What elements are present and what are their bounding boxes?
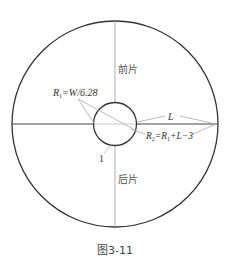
r2-formula-label: R2=R1+L−3 — [145, 131, 193, 142]
r1-leader-line-1 — [78, 99, 94, 123]
figure-caption: 图3-11 — [97, 244, 133, 257]
pattern-diagram: 前片 后片 R1=W/6.28 L R2=R1+L−3 1 图3-11 — [0, 0, 231, 264]
back-piece-label: 后片 — [118, 173, 138, 185]
r1-symbol: R — [52, 87, 59, 98]
r2-leader-line-left — [130, 129, 145, 134]
r2-formula-rest: +L−3 — [170, 131, 193, 141]
point-1-leader-line — [104, 146, 110, 153]
l-leader-line-left — [137, 116, 165, 122]
l-label: L — [167, 111, 174, 122]
r1-formula-label: R1=W/6.28 — [52, 87, 97, 99]
l-leader-line-right — [180, 116, 216, 124]
r2-leader-line-right — [191, 124, 216, 135]
front-piece-label: 前片 — [118, 63, 138, 75]
point-1-label: 1 — [99, 153, 104, 164]
r2-formula-mid: =R — [155, 131, 167, 141]
r1-formula-rest: =W/6.28 — [62, 87, 97, 98]
